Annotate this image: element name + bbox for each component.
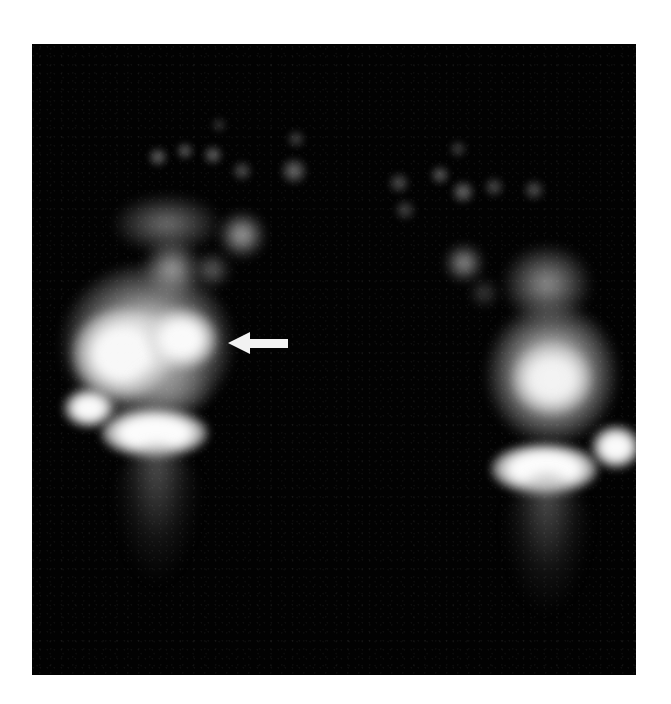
left-toe-7	[210, 116, 228, 134]
right-toe-3	[450, 179, 476, 205]
right-leg	[502, 474, 592, 614]
right-sesamoid-spot	[444, 244, 484, 282]
right-toe-7	[392, 199, 418, 221]
right-toe-6	[448, 139, 468, 159]
right-toe-4	[482, 176, 506, 198]
right-midfoot-hotspot	[512, 344, 592, 414]
left-toe-3	[202, 144, 224, 166]
right-toe-1	[387, 171, 411, 195]
left-toe-2	[175, 141, 195, 161]
right-small-spot	[469, 279, 499, 307]
left-toe-1	[147, 146, 169, 168]
arrow-left-icon	[228, 331, 290, 355]
scintigraphy-image	[32, 44, 636, 675]
right-toe-5	[522, 178, 546, 202]
left-toe-5	[279, 156, 309, 186]
left-toe-6	[285, 129, 307, 149]
right-toe-2	[429, 164, 451, 186]
right-lateral-malleolus	[592, 426, 636, 468]
left-medial-malleolus	[64, 389, 114, 427]
left-leg	[112, 444, 202, 584]
left-cuneiform-spot	[217, 212, 267, 258]
left-toe-4	[230, 160, 254, 182]
